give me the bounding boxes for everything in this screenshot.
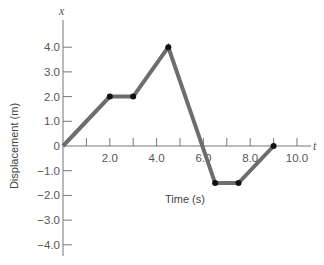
- x-tick-label: 10.0: [286, 152, 308, 164]
- y-tick-label: 4.0: [44, 41, 60, 53]
- y-tick-label: 2.0: [44, 91, 60, 103]
- x-axis-variable: t: [313, 139, 317, 153]
- data-point-marker: [271, 143, 277, 149]
- x-tick-label: 4.0: [149, 152, 165, 164]
- data-point-marker: [212, 180, 218, 186]
- data-point-marker: [236, 180, 242, 186]
- y-axis-title: Displacement (m): [8, 103, 20, 189]
- data-point-marker: [165, 44, 171, 50]
- y-tick-label: −3.0: [37, 214, 60, 226]
- data-point-marker: [130, 94, 136, 100]
- y-tick-label: −4.0: [37, 239, 60, 251]
- displacement-time-chart: 4.03.02.01.00−1.0−2.0−3.0−4.0 2.04.06.08…: [0, 0, 324, 265]
- x-axis-title: Time (s): [165, 193, 205, 205]
- y-tick-label: −1.0: [37, 165, 60, 177]
- y-tick-label: 1.0: [44, 115, 60, 127]
- data-point-marker: [107, 94, 113, 100]
- x-axis-ticks: 2.04.06.08.010.0: [86, 138, 308, 164]
- y-tick-label: 0: [54, 140, 60, 152]
- x-tick-label: 2.0: [102, 152, 118, 164]
- y-tick-label: −2.0: [37, 189, 60, 201]
- data-series: [63, 44, 277, 186]
- y-axis-variable: x: [58, 4, 65, 18]
- y-tick-label: 3.0: [44, 66, 60, 78]
